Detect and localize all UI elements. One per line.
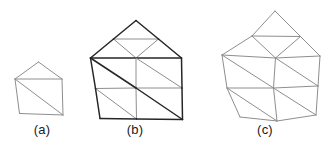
mesh-diagram-svg: [0, 0, 334, 150]
mesh-boundary-edge: [20, 114, 64, 116]
mesh-interior-edge: [222, 55, 274, 88]
mesh-interior-edge: [114, 39, 137, 58]
mesh-interior-edge: [136, 88, 183, 120]
mesh-boundary-edge: [39, 62, 63, 79]
panel-c-mesh: [222, 11, 320, 121]
mesh-boundary-edge: [252, 11, 275, 36]
mesh-boundary-edge: [136, 21, 159, 40]
mesh-boundary-edge: [159, 39, 182, 58]
mesh-boundary-edge: [114, 21, 137, 40]
mesh-interior-edge: [222, 55, 276, 58]
mesh-interior-edge: [276, 56, 321, 58]
mesh-interior-edge: [136, 88, 137, 119]
mesh-boundary-edge: [137, 119, 183, 120]
mesh-boundary-edge: [277, 115, 316, 121]
mesh-boundary-edge: [316, 86, 318, 115]
mesh-interior-edge: [276, 37, 301, 59]
mesh-boundary-edge: [62, 79, 63, 115]
mesh-boundary-edge: [15, 79, 20, 114]
mesh-interior-edge: [252, 36, 276, 58]
mesh-interior-edge: [276, 58, 319, 86]
mesh-interior-edge: [274, 88, 278, 121]
mesh-boundary-edge: [91, 58, 96, 89]
mesh-boundary-edge: [100, 119, 137, 120]
mesh-boundary-edge: [222, 55, 227, 88]
mesh-boundary-edge: [182, 88, 183, 120]
mesh-interior-edge: [274, 88, 317, 115]
mesh-interior-edge: [274, 58, 276, 88]
mesh-boundary-edge: [91, 39, 114, 58]
mesh-boundary-edge: [182, 58, 183, 88]
mesh-boundary-edge: [275, 11, 301, 37]
panel-b-mesh: [91, 21, 183, 120]
mesh-interior-edge: [136, 58, 182, 88]
panel-a-mesh: [15, 62, 63, 115]
mesh-boundary-edge: [96, 89, 101, 119]
mesh-interior-edge: [252, 36, 301, 37]
mesh-boundary-edge: [15, 62, 39, 79]
mesh-interior-edge: [96, 89, 137, 120]
mesh-boundary-edge: [318, 56, 320, 86]
mesh-boundary-edge: [222, 36, 252, 55]
mesh-interior-edge: [274, 86, 319, 88]
mesh-boundary-edge: [301, 37, 321, 57]
mesh-interior-edge: [96, 88, 137, 89]
mesh-interior-edge: [91, 58, 137, 88]
mesh-refinement-figure: (a) (b) (c): [0, 0, 334, 150]
mesh-interior-edge: [15, 79, 63, 115]
mesh-interior-edge: [136, 39, 159, 58]
